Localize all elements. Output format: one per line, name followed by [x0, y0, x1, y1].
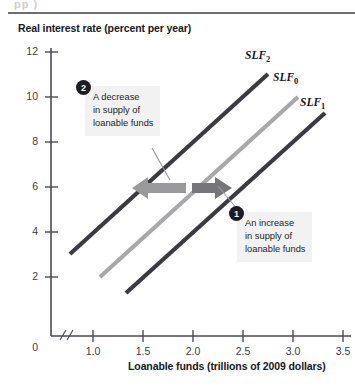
y-tick-label: 10: [16, 90, 38, 102]
y-tick-label: 4: [16, 225, 38, 237]
x-tick-label: 2.0: [178, 345, 208, 357]
decrease-arrow: [132, 177, 186, 199]
x-tick-label: 3.5: [328, 345, 355, 357]
y-axis-origin-label: 0: [16, 341, 38, 353]
curve-label-slf0-sub: 0: [294, 76, 298, 86]
callout-decrease-line3: loanable funds: [93, 117, 153, 130]
callout-decrease-line1: A decrease: [93, 91, 153, 104]
callout-decrease-line2: in supply of: [93, 104, 153, 117]
x-tick-label: 1.5: [128, 345, 158, 357]
callout-increase-line2: in supply of: [245, 230, 305, 243]
callout-increase-badge: 1: [229, 206, 244, 221]
curve-slf1: [126, 113, 325, 293]
curve-label-slf0: SLF0: [273, 71, 298, 86]
curve-label-slf0-base: SLF: [273, 71, 294, 83]
axis-break-mark: [67, 330, 73, 340]
y-tick-label: 2: [16, 270, 38, 282]
x-tick-label: 1.0: [78, 345, 108, 357]
callout-increase-line1: An increase: [245, 217, 305, 230]
x-tick-label: 2.5: [228, 345, 258, 357]
curve-label-slf2: SLF2: [245, 49, 270, 64]
curve-label-slf1: SLF1: [300, 96, 325, 111]
chart-svg: [0, 0, 355, 387]
y-tick-label: 6: [16, 180, 38, 192]
curve-label-slf2-sub: 2: [266, 54, 270, 64]
figure-canvas: pp ) Real interest rate (percent per yea…: [0, 0, 355, 387]
curve-label-slf2-base: SLF: [245, 49, 266, 61]
y-tick-label: 12: [16, 45, 38, 57]
axis-break-mark: [60, 330, 66, 340]
callout-decrease-badge: 2: [76, 80, 91, 95]
curve-label-slf1-base: SLF: [300, 96, 321, 108]
callout-increase: An increase in supply of loanable funds: [237, 212, 312, 262]
curve-label-slf1-sub: 1: [321, 101, 325, 111]
callout-increase-line3: loanable funds: [245, 243, 305, 256]
callout-decrease: A decrease in supply of loanable funds: [85, 86, 160, 136]
x-tick-label: 3.0: [278, 345, 308, 357]
y-tick-label: 8: [16, 135, 38, 147]
